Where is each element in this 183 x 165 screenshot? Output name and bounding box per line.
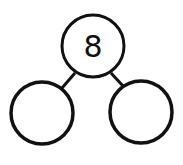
number-bond-diagram: 8 <box>0 0 183 165</box>
left-connector-line <box>62 73 75 88</box>
left-part-circle[interactable] <box>11 82 73 144</box>
whole-value: 8 <box>83 29 102 64</box>
right-connector-line <box>111 73 123 86</box>
right-part-circle[interactable] <box>110 81 172 143</box>
